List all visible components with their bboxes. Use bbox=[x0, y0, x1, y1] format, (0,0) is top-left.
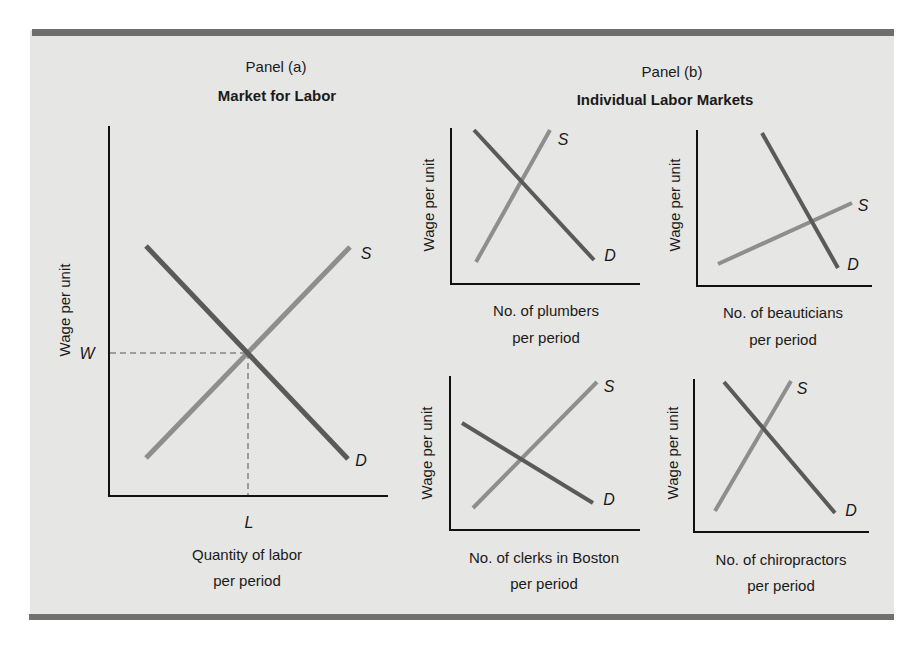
panel-b-label: Panel (b) bbox=[642, 63, 703, 80]
panel-a-xlabel-line2: per period bbox=[213, 572, 281, 589]
clerks-demand-line bbox=[462, 423, 593, 503]
plumbers-s-label: S bbox=[558, 131, 569, 148]
plumbers-xlabel-line2: per period bbox=[512, 329, 580, 346]
clerks-xlabel-line2: per period bbox=[510, 575, 578, 592]
clerks-d-label: D bbox=[603, 491, 615, 508]
clerks-supply-line bbox=[473, 382, 597, 508]
beauticians-xlabel-line1: No. of beauticians bbox=[723, 304, 843, 321]
plumbers-xlabel-line1: No. of plumbers bbox=[493, 302, 599, 319]
panel-a-label: Panel (a) bbox=[246, 58, 307, 75]
chiropractors-d-label: D bbox=[845, 502, 857, 519]
panel-b-title: Individual Labor Markets bbox=[577, 91, 754, 108]
plumbers-demand-line bbox=[474, 130, 594, 260]
panel-a-s-label: S bbox=[361, 245, 372, 262]
beauticians-d-label: D bbox=[847, 256, 859, 273]
beauticians-xlabel-line2: per period bbox=[749, 331, 817, 348]
plumbers-ylabel: Wage per unit bbox=[420, 158, 437, 252]
panel-a-l-label: L bbox=[245, 514, 254, 531]
panel-b: Panel (b) Individual Labor Markets bbox=[577, 63, 754, 108]
clerks-ylabel: Wage per unit bbox=[418, 406, 435, 500]
chiropractors-xlabel-line2: per period bbox=[747, 577, 815, 594]
plumbers-chart: Wage per unit S D No. of plumbers per pe… bbox=[420, 128, 640, 346]
panel-a-xlabel-line1: Quantity of labor bbox=[192, 546, 302, 563]
panel-a-ylabel: Wage per unit bbox=[56, 263, 73, 357]
beauticians-ylabel: Wage per unit bbox=[666, 158, 683, 252]
beauticians-chart: Wage per unit S D No. of beauticians per… bbox=[666, 130, 872, 348]
panel-a: Panel (a) Market for Labor Wage per unit… bbox=[56, 58, 388, 589]
clerks-xlabel-line1: No. of clerks in Boston bbox=[469, 549, 619, 566]
chiropractors-xlabel-line1: No. of chiropractors bbox=[716, 551, 847, 568]
beauticians-demand-line bbox=[762, 133, 838, 268]
chiropractors-chart: Wage per unit S D No. of chiropractors p… bbox=[664, 379, 869, 594]
plumbers-d-label: D bbox=[604, 247, 616, 264]
panel-a-title: Market for Labor bbox=[218, 87, 337, 104]
plumbers-supply-line bbox=[476, 130, 550, 262]
panel-a-w-label: W bbox=[79, 345, 96, 362]
clerks-chart: Wage per unit S D No. of clerks in Bosto… bbox=[418, 376, 640, 592]
chiropractors-ylabel: Wage per unit bbox=[664, 406, 681, 500]
chiropractors-s-label: S bbox=[797, 380, 808, 397]
clerks-s-label: S bbox=[604, 378, 615, 395]
figure-canvas: Panel (a) Market for Labor Wage per unit… bbox=[0, 0, 913, 654]
panel-a-d-label: D bbox=[355, 452, 367, 469]
beauticians-s-label: S bbox=[858, 197, 869, 214]
